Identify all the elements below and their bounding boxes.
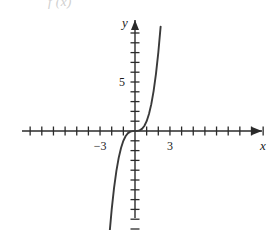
x-tick-label: 3	[167, 139, 173, 153]
x-axis-label: x	[259, 138, 266, 153]
x-tick-label: −3	[94, 139, 107, 153]
x-axis-ticks	[30, 127, 263, 136]
y-tick-label: 5	[119, 75, 125, 89]
cubic-function-graph: −33 5 x y	[0, 0, 276, 230]
y-axis-arrowhead	[131, 20, 139, 30]
y-axis-tick-labels: 5	[119, 75, 125, 89]
y-axis-label: y	[120, 15, 128, 30]
x-axis-arrowhead	[252, 127, 262, 135]
